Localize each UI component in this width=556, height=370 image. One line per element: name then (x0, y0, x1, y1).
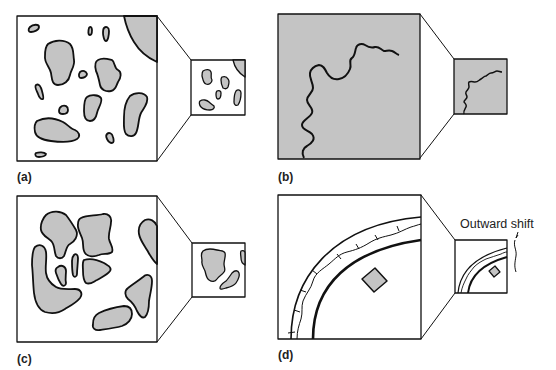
panel-label-a: (a) (17, 170, 32, 184)
panel-c (17, 196, 245, 342)
panel-b (278, 14, 507, 159)
panel-label-b: (b) (278, 170, 293, 184)
panel-label-d: (d) (278, 348, 293, 362)
outward-shift-annotation: Outward shift (460, 217, 534, 231)
panel-label-c: (c) (17, 352, 32, 366)
panel-a (17, 16, 245, 161)
figure-canvas (0, 0, 556, 370)
